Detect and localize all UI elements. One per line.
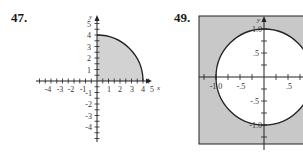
y-tick-label: -.5 — [250, 97, 259, 106]
x-tick-label: .5 — [286, 82, 292, 91]
y-tick-label: 1.0 — [252, 25, 262, 34]
x-tick-label: -.5 — [237, 82, 246, 91]
y-tick-label: -1.0 — [249, 121, 262, 130]
graph-49: -1.0 -.5 .5 1.0 .5 -.5 -1.0 y — [0, 0, 303, 156]
x-tick-label: -1.0 — [210, 82, 223, 91]
y-tick-label: .5 — [253, 49, 259, 58]
